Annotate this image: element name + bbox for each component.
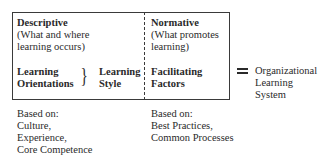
facilitating-factors-2: Factors: [151, 78, 185, 90]
normative-based-on-item: Best Practices,: [151, 120, 213, 132]
descriptive-based-on-item: Experience,: [17, 132, 67, 144]
learning-orientations-1: Learning: [17, 66, 58, 78]
result-line-1: Organizational: [255, 65, 317, 77]
facilitating-factors-1: Facilitating: [151, 66, 202, 78]
brace-icon: }: [81, 64, 88, 86]
descriptive-subtitle-1: (What and where: [17, 29, 89, 41]
dashed-divider: [144, 12, 145, 100]
normative-subtitle-2: learning): [151, 41, 189, 53]
result-line-3: System: [255, 89, 286, 101]
descriptive-title: Descriptive: [17, 17, 68, 29]
normative-based-on-item: Common Processes: [151, 132, 234, 144]
normative-based-on-label: Based on:: [151, 108, 193, 120]
normative-subtitle-1: (What promotes: [151, 29, 219, 41]
result-line-2: Learning: [255, 77, 293, 89]
descriptive-based-on-label: Based on:: [17, 108, 59, 120]
descriptive-based-on-item: Core Competence: [17, 144, 93, 156]
descriptive-subtitle-2: learning occurs): [17, 41, 85, 53]
descriptive-based-on-item: Culture,: [17, 120, 51, 132]
normative-title: Normative: [151, 17, 199, 29]
learning-style-1: Learning: [99, 66, 140, 78]
learning-style-2: Style: [99, 78, 121, 90]
learning-orientations-2: Orientations: [17, 78, 74, 90]
equals-icon: [237, 68, 248, 74]
